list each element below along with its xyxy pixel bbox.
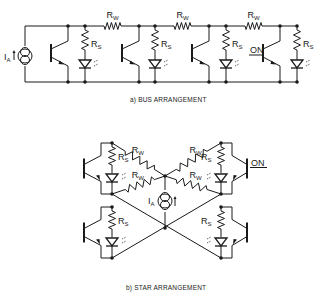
junction-dot bbox=[153, 80, 157, 84]
rs-label: RS bbox=[118, 152, 129, 163]
light-rays-icon bbox=[94, 60, 98, 66]
rs-label: RS bbox=[201, 216, 212, 227]
star-caption: b) STAR ARRANGEMENT bbox=[126, 284, 206, 292]
junction-dot bbox=[153, 24, 157, 28]
junction-dot bbox=[224, 24, 228, 28]
rs-resistor bbox=[223, 30, 230, 50]
junction-dot bbox=[110, 205, 114, 209]
bus-cell: RSRW bbox=[122, 10, 191, 84]
light-rays-icon bbox=[122, 173, 126, 179]
junction-dot bbox=[207, 80, 211, 84]
rw-label: RW bbox=[132, 170, 145, 181]
rs-label: RS bbox=[303, 39, 314, 50]
rs-resistor bbox=[294, 30, 301, 50]
bus-current-source: IA bbox=[4, 26, 32, 82]
junction-dot bbox=[83, 80, 87, 84]
junction-dot bbox=[110, 192, 114, 196]
transistor-collector bbox=[192, 26, 209, 49]
transistor-collector bbox=[122, 26, 139, 49]
on-label: ON bbox=[251, 158, 265, 168]
rw-resistors: RWRWRWRW bbox=[112, 143, 221, 194]
rs-label: RS bbox=[118, 216, 129, 227]
transistor-collector bbox=[84, 143, 101, 165]
junction-dot bbox=[278, 80, 282, 84]
junction-dot bbox=[219, 141, 223, 145]
star-source-label: IA bbox=[148, 196, 155, 207]
junction-dot bbox=[295, 80, 299, 84]
junction-dot bbox=[219, 256, 223, 260]
junction-dot bbox=[110, 256, 114, 260]
transistor-collector bbox=[232, 143, 247, 165]
transistor-collector bbox=[84, 207, 101, 229]
led-icon bbox=[149, 60, 161, 68]
rw-resistor bbox=[245, 23, 262, 30]
rs-resistor bbox=[82, 30, 89, 50]
led-icon bbox=[106, 174, 118, 182]
led-icon bbox=[215, 174, 227, 182]
star-cell-bottom-left: RS bbox=[84, 205, 129, 260]
junction-dot bbox=[110, 141, 114, 145]
led-icon bbox=[291, 60, 303, 68]
rs-label: RS bbox=[161, 39, 172, 50]
circuit-diagram: IA RSRWRSRWRSRWRSON a) BUS ARRANGEMENT R… bbox=[0, 0, 315, 301]
rs-resistor bbox=[109, 211, 116, 229]
rw-label: RW bbox=[177, 10, 190, 21]
bus-source-label: IA bbox=[4, 52, 11, 63]
on-label: ON bbox=[250, 45, 264, 55]
light-rays-icon bbox=[164, 60, 168, 66]
rs-resistor bbox=[109, 147, 116, 165]
rs-resistor bbox=[152, 30, 159, 50]
junction-dot bbox=[83, 24, 87, 28]
rs-label: RS bbox=[232, 39, 243, 50]
light-rays-icon bbox=[207, 173, 211, 179]
junction-dot bbox=[207, 24, 211, 28]
rw-resistor bbox=[174, 23, 191, 30]
junction-dot bbox=[295, 24, 299, 28]
led-icon bbox=[215, 238, 227, 246]
junction-dot bbox=[137, 80, 141, 84]
junction-dot bbox=[66, 80, 70, 84]
led-icon bbox=[79, 60, 91, 68]
star-top-node bbox=[163, 174, 167, 178]
led-icon bbox=[220, 60, 232, 68]
transistor-collector bbox=[232, 207, 247, 229]
junction-dot bbox=[224, 80, 228, 84]
star-current-source: IA bbox=[148, 176, 177, 228]
transistor-collector bbox=[263, 26, 280, 49]
rs-resistor bbox=[218, 147, 225, 165]
bus-caption: a) BUS ARRANGEMENT bbox=[130, 96, 207, 104]
light-rays-icon bbox=[235, 60, 239, 66]
bus-cell: RSRW bbox=[51, 10, 121, 84]
rw-label: RW bbox=[248, 10, 261, 21]
transistor-collector bbox=[51, 26, 68, 49]
light-rays-icon bbox=[122, 237, 126, 243]
junction-dot bbox=[219, 192, 223, 196]
rw-resistor bbox=[104, 23, 121, 30]
light-rays-icon bbox=[207, 237, 211, 243]
rs-label: RS bbox=[91, 39, 102, 50]
junction-dot bbox=[66, 24, 70, 28]
junction-dot bbox=[137, 24, 141, 28]
junction-dot bbox=[278, 24, 282, 28]
light-rays-icon bbox=[306, 60, 310, 66]
bus-cell: RSON bbox=[249, 24, 314, 84]
rw-resistor bbox=[176, 178, 207, 191]
rw-label: RW bbox=[132, 145, 145, 156]
junction-dot bbox=[219, 205, 223, 209]
rw-label: RW bbox=[107, 10, 120, 21]
star-cell-bottom-right: RS bbox=[201, 205, 247, 260]
star-bottom-node bbox=[163, 226, 167, 230]
rs-label: RS bbox=[201, 152, 212, 163]
rs-resistor bbox=[218, 211, 225, 229]
rw-label: RW bbox=[190, 170, 203, 181]
led-icon bbox=[106, 238, 118, 246]
